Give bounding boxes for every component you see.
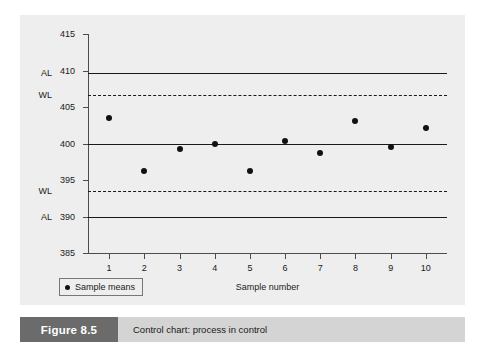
data-point — [247, 168, 253, 174]
y-axis-tick — [83, 253, 89, 254]
x-axis-tick — [320, 253, 321, 259]
figure-number-tag: Figure 8.5 — [20, 317, 118, 342]
control-line-upper-action-limit — [88, 73, 447, 74]
control-limit-label: WL — [26, 91, 52, 100]
x-axis-tick-label: 7 — [308, 263, 332, 273]
data-point — [352, 118, 358, 124]
y-axis-tick — [83, 71, 89, 72]
data-point — [106, 115, 112, 121]
x-axis-tick — [144, 253, 145, 259]
legend-entry-label: Sample means — [75, 282, 135, 292]
x-axis-tick-label: 3 — [168, 263, 192, 273]
control-line-lower-warning-limit — [88, 191, 447, 192]
x-axis-tick-label: 10 — [414, 263, 438, 273]
data-point — [212, 141, 218, 147]
x-axis-tick-label: 4 — [203, 263, 227, 273]
data-point — [388, 144, 394, 150]
x-axis-tick-label: 6 — [273, 263, 297, 273]
x-axis-tick — [391, 253, 392, 259]
legend-marker-icon — [65, 285, 70, 290]
x-axis-tick — [426, 253, 427, 259]
y-axis-tick-label: 400 — [35, 140, 75, 149]
y-axis-tick-label: 415 — [35, 30, 75, 39]
x-axis-tick — [180, 253, 181, 259]
x-axis-tick — [250, 253, 251, 259]
x-axis-tick — [215, 253, 216, 259]
x-axis-tick-label: 9 — [379, 263, 403, 273]
x-axis-tick-label: 8 — [343, 263, 367, 273]
y-axis-tick — [83, 34, 89, 35]
control-line-upper-warning-limit — [88, 95, 447, 96]
x-axis-tick-label: 5 — [238, 263, 262, 273]
data-point — [141, 168, 147, 174]
x-axis-tick — [285, 253, 286, 259]
data-point — [177, 146, 183, 152]
x-axis-tick — [109, 253, 110, 259]
control-limit-label: AL — [26, 213, 52, 222]
control-limit-label: WL — [26, 187, 52, 196]
x-axis-tick — [355, 253, 356, 259]
chart-legend: Sample means — [59, 278, 143, 296]
figure-caption-bar: Figure 8.5 Control chart: process in con… — [20, 317, 465, 342]
y-axis-tick-label: 385 — [35, 249, 75, 258]
plot-area: 415410405400395390385ALWLWLAL12345678910… — [20, 15, 465, 305]
figure-container: 415410405400395390385ALWLWLAL12345678910… — [0, 0, 484, 361]
control-line-lower-action-limit — [88, 217, 447, 218]
data-point — [423, 125, 429, 131]
figure-caption-text: Control chart: process in control — [118, 317, 465, 342]
x-axis-line — [88, 253, 447, 254]
y-axis-tick — [83, 180, 89, 181]
control-limit-label: AL — [26, 69, 52, 78]
x-axis-tick-label: 2 — [132, 263, 156, 273]
x-axis-tick-label: 1 — [97, 263, 121, 273]
data-point — [317, 150, 323, 156]
y-axis-tick-label: 395 — [35, 176, 75, 185]
chart-panel: 415410405400395390385ALWLWLAL12345678910… — [20, 15, 465, 305]
y-axis-tick — [83, 107, 89, 108]
y-axis-tick-label: 405 — [35, 103, 75, 112]
